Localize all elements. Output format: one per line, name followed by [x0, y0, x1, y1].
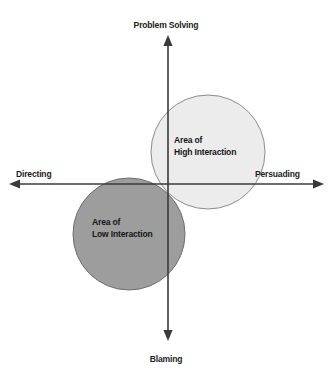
- left-arrowhead-icon: [9, 179, 20, 188]
- axis-label-left: Directing: [16, 168, 51, 179]
- axis-label-top: Problem Solving: [17, 19, 316, 30]
- right-arrowhead-icon: [313, 179, 324, 188]
- down-arrowhead-icon: [163, 330, 172, 341]
- circle-label-high-interaction: Area of High Interaction: [174, 134, 236, 157]
- circle-label-low-interaction: Area of Low Interaction: [92, 216, 152, 239]
- up-arrowhead-icon: [163, 35, 172, 46]
- circle-label-low-line1: Area of: [92, 216, 152, 228]
- circle-label-high-line1: Area of: [174, 134, 236, 146]
- axis-label-bottom: Blaming: [17, 353, 316, 364]
- diagram-canvas: Problem Solving Blaming Directing Persua…: [0, 0, 332, 378]
- axis-label-right: Persuading: [255, 168, 300, 179]
- circle-label-low-line2: Low Interaction: [92, 228, 152, 240]
- circle-label-high-line2: High Interaction: [174, 146, 236, 158]
- diagram-graphics: [0, 0, 332, 378]
